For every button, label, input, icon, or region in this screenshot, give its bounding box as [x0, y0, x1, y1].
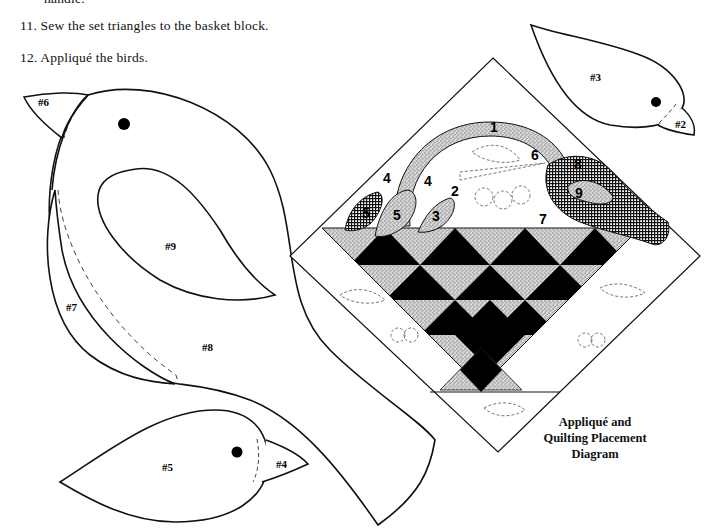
label-body-8: #8 [202, 341, 214, 353]
label-wing-9: #9 [165, 240, 177, 252]
label-tail-7: #7 [66, 301, 78, 313]
small-bird-bottom-eye [232, 447, 243, 458]
label-beak-2: #2 [675, 118, 687, 130]
label-body-3: #3 [590, 71, 602, 83]
svg-text:6: 6 [531, 147, 539, 163]
svg-text:2: 2 [451, 183, 459, 199]
label-body-5: #5 [162, 461, 174, 473]
small-bird-top-body [531, 25, 684, 127]
label-beak-6: #6 [38, 96, 50, 108]
svg-text:9: 9 [575, 185, 583, 201]
label-beak-4: #4 [276, 458, 288, 470]
small-bird-top-eye [651, 97, 661, 107]
svg-text:7: 7 [539, 211, 547, 227]
svg-text:4: 4 [383, 170, 391, 186]
diagram-caption: Appliqué and Quilting Placement Diagram [530, 414, 660, 462]
svg-text:3: 3 [432, 208, 440, 224]
svg-text:8: 8 [574, 156, 582, 172]
svg-text:4: 4 [424, 173, 432, 189]
small-bird-bottom-template: #5 #4 [60, 410, 308, 522]
svg-text:5: 5 [393, 207, 401, 223]
svg-text:5: 5 [362, 205, 370, 221]
large-bird-eye [118, 118, 130, 130]
svg-text:1: 1 [490, 119, 498, 135]
